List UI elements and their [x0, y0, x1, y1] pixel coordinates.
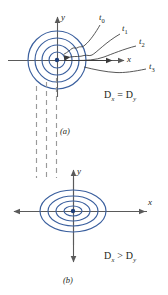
condition-a-sub2: y — [133, 95, 136, 102]
condition-b-sub2: y — [133, 256, 136, 263]
time-label-t0-sub: 0 — [102, 17, 105, 24]
y-axis-label-a: y — [61, 13, 65, 22]
condition-b-op: > — [117, 250, 123, 261]
condition-a-op: = — [117, 89, 123, 100]
panel-label-b: (b) — [63, 276, 73, 285]
condition-a: Dx = Dy — [104, 90, 136, 103]
leader-t3 — [84, 67, 146, 73]
diffusion-contour-figure: x y t0 t1 t2 t3 Dx = Dy (a) x y Dx > Dy … — [0, 0, 168, 295]
time-label-t2-sub: 2 — [142, 41, 145, 48]
time-label-t1: t1 — [122, 24, 128, 35]
x-axis-label-b: x — [148, 198, 152, 207]
origin-dot-a — [55, 58, 59, 62]
panel-a-axes — [8, 17, 124, 97]
time-label-t0: t0 — [99, 13, 105, 24]
condition-b: Dx > Dy — [104, 251, 136, 264]
condition-a-sub1: x — [111, 95, 114, 102]
time-label-t1-sub: 1 — [125, 28, 128, 35]
time-label-t3: t3 — [149, 62, 155, 73]
condition-b-sub1: x — [111, 256, 114, 263]
panel-b-axes — [14, 170, 147, 262]
origin-dot-b — [71, 209, 75, 213]
y-axis-label-b: y — [77, 167, 81, 176]
x-axis-label-a: x — [127, 55, 131, 64]
time-label-t2: t2 — [139, 37, 145, 48]
panel-label-a: (a) — [60, 127, 70, 136]
time-label-t3-sub: 3 — [152, 66, 155, 73]
panel-b-group — [14, 170, 147, 262]
dashed-guides — [37, 78, 57, 178]
